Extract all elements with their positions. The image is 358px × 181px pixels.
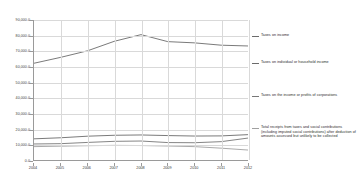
chart-legend: Taxes on incomeTaxes on individual or ho…: [252, 20, 358, 165]
gridline-vertical: [249, 20, 250, 160]
y-axis-tick-label: 50,000.0: [16, 81, 30, 85]
y-axis-tick-label: 70,000.0: [16, 49, 30, 53]
legend-line-icon: [252, 126, 259, 130]
x-axis-tick-mark: [248, 163, 249, 166]
x-axis-tick-label: 2006: [83, 166, 91, 171]
x-axis-tick-label: 2004: [29, 166, 37, 171]
legend-item-label: Taxes on individual or household income: [261, 60, 329, 65]
x-axis-tick-mark: [87, 163, 88, 166]
legend-item[interactable]: Taxes on individual or household income: [252, 60, 358, 65]
y-axis-tick-label: 60,000.0: [16, 65, 30, 69]
legend-item-label: Taxes on the income or profits of corpor…: [261, 93, 337, 98]
x-axis-tick-mark: [167, 163, 168, 166]
legend-item[interactable]: Total receipts from taxes and social con…: [252, 125, 358, 139]
gridline-vertical: [142, 20, 143, 160]
legend-line-icon: [252, 34, 259, 38]
legend-item-label: Taxes on income: [261, 33, 289, 38]
gridline-vertical: [88, 20, 89, 160]
plot-area: [33, 20, 248, 161]
x-axis-tick-label: 2010: [190, 166, 198, 171]
legend-line-icon: [252, 94, 259, 98]
line-chart: 0.010,000.020,000.030,000.040,000.050,00…: [0, 0, 358, 181]
legend-item[interactable]: Taxes on income: [252, 33, 358, 38]
gridline-vertical: [168, 20, 169, 160]
x-axis-tick-mark: [141, 163, 142, 166]
y-axis-tick-mark: [29, 161, 33, 162]
x-axis-tick-mark: [194, 163, 195, 166]
x-axis-tick-mark: [221, 163, 222, 166]
legend-item[interactable]: Taxes on the income or profits of corpor…: [252, 93, 358, 98]
legend-item-label: Total receipts from taxes and social con…: [261, 125, 358, 139]
x-axis: 200420052006200720082009201020112012: [0, 163, 358, 177]
gridline-vertical: [61, 20, 62, 160]
y-axis-tick-label: 90,000.0: [16, 18, 30, 22]
x-axis-tick-mark: [33, 163, 34, 166]
y-axis-tick-label: 40,000.0: [16, 96, 30, 100]
legend-line-icon: [252, 61, 259, 65]
x-axis-tick-label: 2007: [109, 166, 117, 171]
gridline-vertical: [115, 20, 116, 160]
y-axis-tick-label: 10,000.0: [16, 143, 30, 147]
x-axis-tick-label: 2008: [136, 166, 144, 171]
y-axis-tick-label: 30,000.0: [16, 112, 30, 116]
gridline-vertical: [195, 20, 196, 160]
y-axis-tick-label: 20,000.0: [16, 128, 30, 132]
x-axis-tick-label: 2009: [163, 166, 171, 171]
x-axis-tick-mark: [60, 163, 61, 166]
x-axis-tick-mark: [114, 163, 115, 166]
y-axis: 0.010,000.020,000.030,000.040,000.050,00…: [0, 0, 33, 181]
x-axis-tick-label: 2012: [244, 166, 252, 171]
gridline-vertical: [222, 20, 223, 160]
x-axis-tick-label: 2011: [217, 166, 225, 171]
x-axis-tick-label: 2005: [56, 166, 64, 171]
y-axis-tick-label: 80,000.0: [16, 34, 30, 38]
